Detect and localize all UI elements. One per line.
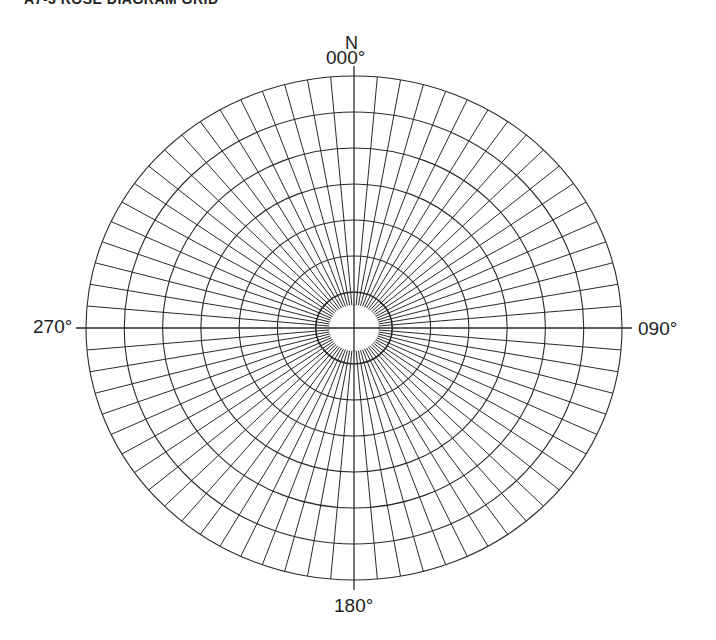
spoke-line [373,166,559,313]
spoke-line [368,122,507,310]
spoke-line [331,351,352,579]
spoke-line [200,347,339,535]
spoke-line [87,306,329,326]
spoke-line [111,338,331,435]
bearing-label-180: 180° [334,595,373,617]
spoke-line [365,349,468,557]
spoke-line [182,346,338,521]
spoke-line [368,347,507,535]
bearing-label-000: 000° [326,47,365,69]
bearing-label-090: 090° [638,318,677,340]
spoke-line [241,100,344,308]
spoke-line [374,183,573,314]
spoke-line [200,122,339,310]
spoke-line [87,330,329,350]
spoke-line [379,330,621,350]
spoke-line [377,338,597,435]
spoke-line [365,100,468,308]
spoke-line [374,341,573,472]
spoke-line [379,306,621,326]
spoke-line [356,77,377,305]
bearing-label-270: 270° [33,316,72,338]
spoke-line [373,343,559,490]
rose-diagram-grid [0,0,716,640]
spoke-line [370,346,526,521]
spoke-line [370,135,526,310]
spoke-line [182,135,338,310]
spoke-line [241,349,344,557]
spoke-line [149,343,335,490]
spoke-line [134,341,333,472]
spoke-line [149,166,335,313]
spoke-line [356,351,377,579]
spoke-line [331,77,352,305]
spoke-line [111,222,331,319]
spoke-line [377,222,597,319]
spoke-line [134,183,333,314]
